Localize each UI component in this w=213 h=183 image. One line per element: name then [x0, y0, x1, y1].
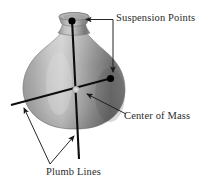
- center-of-mass-marker: [72, 85, 80, 93]
- leader-plumb-vertical: [50, 136, 74, 164]
- center-of-mass-diagram: Suspension Points Center of Mass Plumb L…: [0, 0, 213, 183]
- label-plumb-lines: Plumb Lines: [46, 166, 101, 177]
- suspension-point-top-marker: [68, 17, 75, 24]
- label-center-of-mass: Center of Mass: [124, 110, 190, 121]
- figure-canvas: [0, 0, 213, 183]
- vase-highlight: [46, 53, 72, 115]
- suspension-point-shoulder-marker: [107, 75, 114, 82]
- label-suspension-points: Suspension Points: [116, 12, 195, 23]
